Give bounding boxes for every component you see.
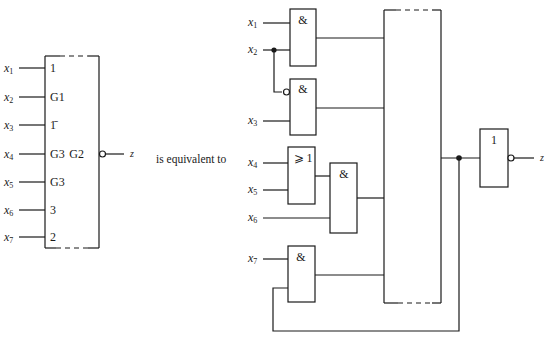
label-2: 2 xyxy=(50,230,56,244)
left-input-x4: x4 xyxy=(3,147,13,162)
label-g3-b: G3 xyxy=(50,175,65,189)
not-output-bubble xyxy=(508,155,514,161)
negation-bubble xyxy=(100,151,106,157)
and-symbol-1: & xyxy=(298,13,308,27)
left-input-x3: x3 xyxy=(3,118,13,133)
right-input-x3: x3 xyxy=(247,113,257,128)
right-input-x2: x2 xyxy=(247,42,257,57)
left-input-x5: x5 xyxy=(3,175,13,190)
equivalence-text: is equivalent to xyxy=(156,153,227,166)
label-g1: G1 xyxy=(50,90,65,104)
logic-diagram: x1 x2 x3 x4 x5 x6 x7 1 G1 1̄ G3 G3 3 2 G… xyxy=(0,0,549,337)
left-output-z: z xyxy=(129,148,134,159)
or-symbol: ⩾ 1 xyxy=(294,151,313,165)
label-g3-a: G3 xyxy=(50,147,65,161)
label-3: 3 xyxy=(50,203,56,217)
right-input-x1: x1 xyxy=(247,15,257,30)
and-symbol-3: & xyxy=(339,167,349,181)
right-output-z: z xyxy=(539,152,544,163)
left-input-x6: x6 xyxy=(3,203,13,218)
label-g2: G2 xyxy=(69,147,84,161)
feedback-wire xyxy=(273,158,459,331)
not-symbol: 1 xyxy=(491,133,497,147)
negated-input-bubble xyxy=(284,89,290,95)
label-1: 1 xyxy=(50,61,56,75)
left-input-x1: x1 xyxy=(3,61,13,76)
left-input-x2: x2 xyxy=(3,90,13,105)
right-input-x5: x5 xyxy=(247,182,257,197)
right-input-x4: x4 xyxy=(247,155,257,170)
left-symbol: x1 x2 x3 x4 x5 x6 x7 1 G1 1̄ G3 G3 3 2 G… xyxy=(3,56,134,248)
label-1-bar: 1̄ xyxy=(50,118,58,132)
and-symbol-2: & xyxy=(298,82,308,96)
and-symbol-4: & xyxy=(296,250,306,264)
right-input-x6: x6 xyxy=(247,210,257,225)
right-input-x7: x7 xyxy=(247,251,257,266)
right-circuit: x1 x2 x3 x4 x5 x6 x7 & & ⩾ 1 & & xyxy=(247,9,544,331)
left-input-x7: x7 xyxy=(3,230,13,245)
wire-x2-branch xyxy=(274,50,282,92)
